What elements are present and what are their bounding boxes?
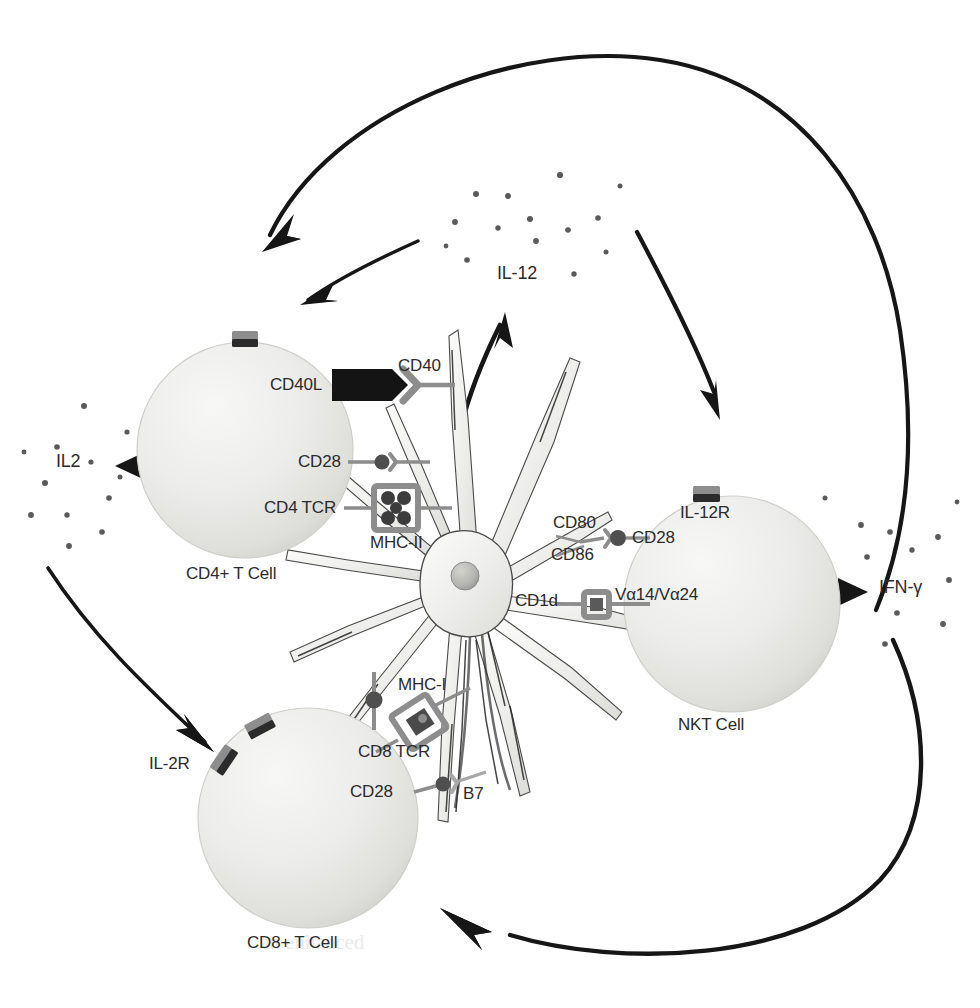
receptor-label-cd28-nkt: CD28 [632,529,675,546]
receptor-label-b7: B7 [463,785,483,802]
receptor-label-mhc-ii: MHC-II [370,534,423,551]
receptor-label-cd86: CD86 [551,546,594,563]
cell-label-cd8: CD8+ T Cell [247,934,337,951]
arrow-il12-to-nkt [637,232,720,420]
cytokine-label-il2: IL2 [56,452,80,470]
cd8-t-cell [198,708,418,928]
arrow-dc-to-cd4 [300,241,418,305]
receptor-label-cd40: CD40 [398,357,441,374]
receptor-label-cd4-tcr: CD4 TCR [264,499,336,516]
receptor-label-il12r: IL-12R [680,504,730,521]
cytokine-label-il12: IL-12 [497,264,537,282]
cytokine-label-ifng: IFN-γ [879,578,922,596]
arrow-dc-to-il12 [460,312,513,430]
cell-label-nkt: NKT Cell [678,716,744,733]
receptor-label-il2r: IL-2R [149,755,190,772]
figure-canvas: expressions using the specific tumors an… [0,0,980,1008]
receptor-label-cd8-tcr: CD8 TCR [358,743,430,760]
receptor-label-valpha: Vα14/Vα24 [615,586,698,603]
cd4-top-receptor [232,331,258,347]
dendritic-cell-nucleus [451,562,479,590]
receptor-label-cd28-cd4: CD28 [298,453,341,470]
receptor-label-cd1d: CD1d [515,592,558,609]
arrow-il2-to-cd8 [48,568,214,752]
receptor-label-mhc-i: MHC-I [398,676,446,693]
receptor-label-cd28-cd8: CD28 [350,783,393,800]
cytokine-dots-il12 [444,172,623,277]
cytokine-dots-il2 [22,403,130,549]
cell-label-cd4: CD4+ T Cell [186,565,276,582]
receptor-label-cd80: CD80 [553,514,596,531]
receptor-label-cd40l: CD40L [270,376,322,393]
cd4-t-cell [137,331,353,558]
il12r-receptor [693,486,720,502]
diagram-svg [0,0,980,1008]
